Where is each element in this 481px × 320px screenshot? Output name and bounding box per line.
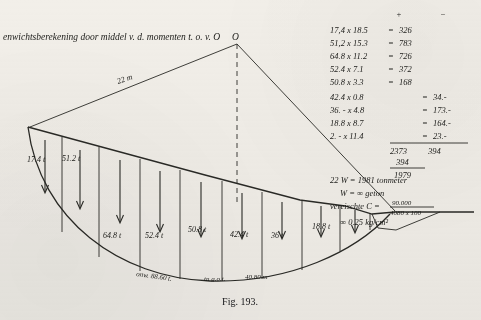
- result-fraction-denominator: 4080 x 100: [390, 209, 422, 217]
- calc-expr: 18.8 x 8.7: [330, 118, 364, 128]
- force-label: 50.8 t: [188, 225, 207, 234]
- calc-expr: 42.4 x 0.8: [330, 92, 364, 102]
- calc-eq: =: [388, 77, 394, 87]
- calc-plus: 168: [399, 77, 413, 87]
- calc-expr: 51,2 x 15.3: [330, 38, 368, 48]
- result-line-2: W = ∞ geton: [340, 188, 384, 198]
- calc-expr: 52.4 x 7.1: [330, 64, 364, 74]
- subtotal-plus: 2373: [390, 146, 407, 156]
- carry-value: 394: [395, 157, 410, 167]
- result-line-3: vereischte C =: [330, 201, 380, 211]
- calc-plus: 726: [399, 51, 413, 61]
- calc-expr: 64.8 x 11.2: [330, 51, 368, 61]
- calc-eq: =: [388, 25, 394, 35]
- sign-plus: +: [396, 9, 402, 19]
- force-label: 51.2 t: [62, 154, 81, 163]
- figure-caption: Fig. 193.: [222, 296, 258, 307]
- calc-minus: 23.-: [433, 131, 447, 141]
- calc-expr: 17,4 x 18.5: [330, 25, 368, 35]
- force-label: 52.4 t: [145, 231, 164, 240]
- calc-minus: 164.-: [433, 118, 451, 128]
- force-label-group: 17.4 t 51.2 t 64.8 t 52.4 t 50.8 t 42.4 …: [27, 154, 331, 240]
- calc-expr: 2. - x 11.4: [330, 131, 364, 141]
- calc-plus: 783: [399, 38, 412, 48]
- sign-minus: −: [440, 9, 446, 19]
- force-label: 64.8 t: [103, 231, 122, 240]
- calculation-block: + − 17,4 x 18.5 = 326 51,2 x 15.3 = 783 …: [329, 9, 468, 227]
- result-line-4: ∞ 0.25 kg/cm²: [340, 217, 388, 227]
- calc-plus: 326: [398, 25, 413, 35]
- calc-eq: =: [388, 38, 394, 48]
- calc-eq: =: [388, 51, 394, 61]
- pole-label: O: [232, 32, 239, 42]
- figure-193: enwichtsberekening door middel v. d. mom…: [0, 0, 481, 320]
- calc-minus: 173.-: [433, 105, 451, 115]
- calc-plus: 372: [398, 64, 413, 74]
- result-line-1: 22 W = 1981 tonmeter: [330, 175, 408, 185]
- calc-eq: =: [422, 105, 428, 115]
- force-label: 42.4 t: [230, 230, 249, 239]
- calc-eq: =: [388, 64, 394, 74]
- force-label: 18.8 t: [312, 222, 331, 231]
- calc-expr: 50.8 x 3.3: [330, 77, 364, 87]
- figure-heading: enwichtsberekening door middel v. d. mom…: [3, 32, 220, 42]
- bottom-note-mid: tn g.o.t.: [204, 275, 226, 283]
- result-fraction-numerator: 90.000: [392, 199, 412, 207]
- force-label: 17.4 t: [27, 155, 46, 164]
- calc-minus: 34.-: [432, 92, 447, 102]
- calc-expr: 36. - x 4.8: [329, 105, 365, 115]
- calc-eq: =: [422, 118, 428, 128]
- calc-eq: =: [422, 92, 428, 102]
- subtotal-minus: 394: [427, 146, 442, 156]
- calc-eq: =: [422, 131, 428, 141]
- bottom-note-left: onw. 88.60 t.: [136, 270, 173, 283]
- radius-label: 22 m: [116, 72, 134, 86]
- bottom-note-right: 40.80 m: [245, 273, 268, 281]
- force-label: 36 t: [270, 231, 284, 240]
